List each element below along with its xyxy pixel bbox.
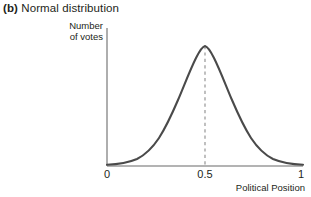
x-tick-label-1: 1 [298, 168, 304, 180]
y-axis-title-line2: of votes [69, 32, 103, 43]
y-axis-title-line1: Number [69, 21, 103, 32]
x-tick-label-0: 0 [104, 168, 110, 180]
figure-panel: (b) Normal distribution Number of votes … [0, 0, 311, 197]
y-axis-title: Number of votes [69, 21, 103, 42]
x-tick-label-half: 0.5 [197, 168, 212, 180]
plot-canvas [0, 0, 311, 197]
x-axis-title: Political Position [236, 182, 305, 193]
